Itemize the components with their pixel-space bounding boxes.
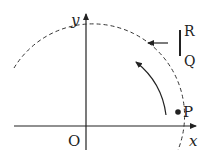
motion-arrow-icon <box>136 62 166 115</box>
screen-r-label: R <box>184 23 195 39</box>
y-axis-label: y <box>70 11 80 29</box>
origin-label: O <box>68 132 80 150</box>
screen-q-label: Q <box>184 53 195 69</box>
point-p-dot <box>175 109 181 115</box>
x-axis-label: x <box>189 132 198 150</box>
point-p-label: P <box>183 103 193 121</box>
diagram-canvas: y x O P R Q <box>0 0 206 163</box>
